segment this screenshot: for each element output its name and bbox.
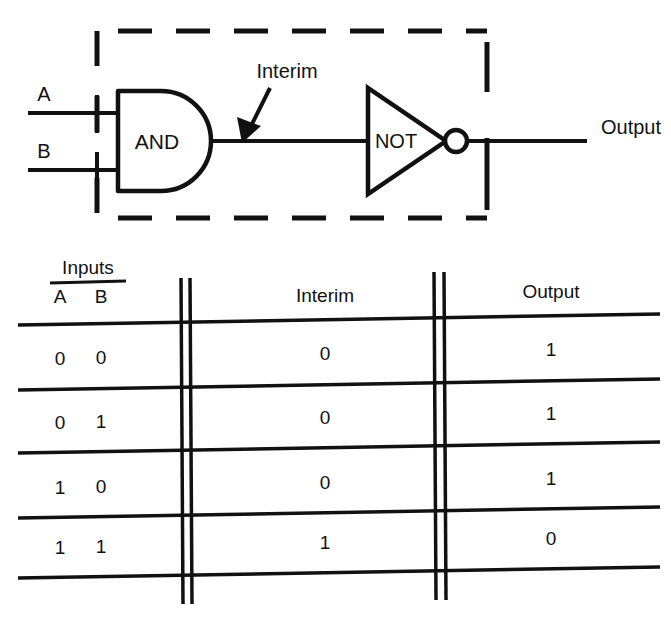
cell-a: 1 (55, 537, 66, 558)
cell-b: 1 (96, 411, 107, 432)
cell-a: 0 (55, 412, 66, 433)
and-gate-label: AND (135, 130, 179, 153)
cell-b: 0 (96, 476, 107, 497)
separator-inputs-interim-left (181, 278, 183, 604)
cell-a: 1 (55, 477, 66, 498)
cell-output: 1 (546, 403, 557, 424)
cell-output: 1 (546, 468, 557, 489)
not-gate-label: NOT (375, 130, 417, 152)
logic-diagram-figure: A B AND Interim NOT Output Inputs A B In… (0, 0, 671, 625)
cell-interim: 0 (320, 407, 331, 428)
not-gate-bubble-icon (445, 130, 467, 152)
and-gate: AND (118, 91, 211, 191)
output-label: Output (601, 116, 661, 138)
header-a: A (54, 286, 67, 307)
cell-a: 0 (55, 348, 66, 369)
header-output: Output (522, 281, 580, 302)
cell-interim: 0 (320, 472, 331, 493)
cell-b: 1 (96, 536, 107, 557)
separator-interim-output-left (434, 272, 436, 600)
cell-interim: 1 (320, 532, 331, 553)
cell-output: 0 (546, 528, 557, 549)
cell-output: 1 (546, 339, 557, 360)
separator-inputs-interim-right (190, 278, 192, 604)
inputs-group-underline (50, 281, 126, 283)
separator-interim-output-right (444, 272, 446, 600)
input-label-b: B (37, 140, 50, 162)
input-label-a: A (37, 83, 51, 105)
header-b: B (95, 286, 108, 307)
header-interim: Interim (296, 285, 354, 306)
inputs-group-label: Inputs (62, 257, 114, 278)
figure-background (0, 0, 671, 625)
cell-b: 0 (96, 347, 107, 368)
cell-interim: 0 (320, 343, 331, 364)
interim-callout-label: Interim (256, 60, 317, 82)
